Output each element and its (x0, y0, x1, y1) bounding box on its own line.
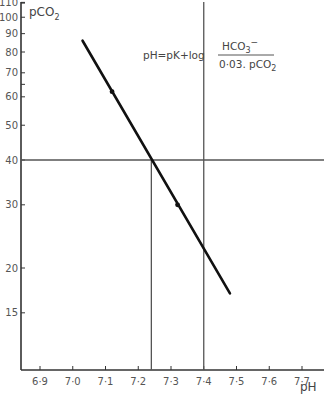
x-tick-label: 7·0 (65, 376, 81, 387)
formula-denominator: 0·03. pCO2 (219, 58, 276, 73)
x-tick-label: 7·5 (229, 376, 245, 387)
y-tick-label: 70 (5, 67, 18, 78)
x-tick-label: 7·1 (98, 376, 114, 387)
y-tick-label: 30 (5, 199, 18, 210)
buffer-line (83, 41, 230, 294)
y-tick-label: 90 (5, 28, 18, 39)
y-tick-label: 40 (5, 155, 18, 166)
x-tick-label: 7·6 (261, 376, 277, 387)
x-axis-title: pH (300, 380, 317, 394)
ph-pco2-chart: 1101009080706050403020156·97·07·17·27·37… (0, 0, 329, 395)
y-tick-label: 80 (5, 47, 18, 58)
y-tick-label: 60 (5, 91, 18, 102)
x-tick-label: 7·3 (163, 376, 179, 387)
formula-annotation: pH=pK+log HCO3− 0·03. pCO2 (143, 37, 276, 73)
y-tick-label: 50 (5, 120, 18, 131)
formula-numerator: HCO3− (222, 37, 258, 55)
y-tick-label: 100 (0, 12, 18, 23)
y-tick-label: 110 (0, 0, 18, 8)
formula-lhs: pH=pK+log (143, 49, 205, 61)
x-tick-label: 7·4 (196, 376, 212, 387)
y-axis-title: pCO2 (29, 5, 60, 22)
data-series (83, 41, 230, 294)
x-tick-label: 7·2 (130, 376, 146, 387)
y-tick-label: 20 (5, 263, 18, 274)
data-point (110, 89, 115, 94)
data-point (175, 202, 180, 207)
y-tick-label: 15 (5, 307, 18, 318)
x-tick-label: 6·9 (32, 376, 48, 387)
